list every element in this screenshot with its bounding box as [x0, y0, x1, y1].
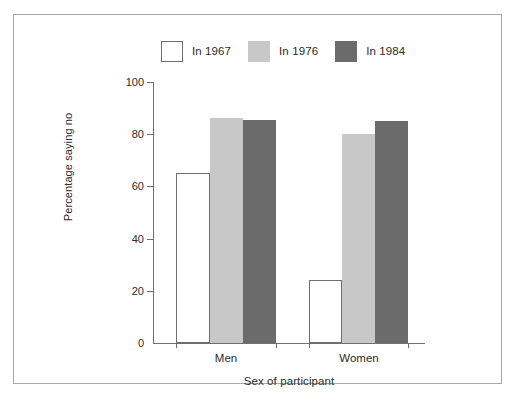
- bar-men-1967: [176, 173, 210, 343]
- x-axis-line: [153, 343, 425, 344]
- y-tick-label-60: 60: [110, 180, 144, 192]
- y-axis-label: Percentage saying no: [62, 107, 74, 227]
- x-tick-label-men: Men: [186, 352, 266, 364]
- y-axis-line: [153, 82, 154, 344]
- y-tick-100: [147, 82, 153, 83]
- y-tick-label-80-wrap: 80: [108, 128, 144, 140]
- bar-women-1967: [309, 280, 342, 343]
- plot-area: Percentage saying no 100 80 60 40 20 0 M…: [14, 15, 515, 401]
- x-axis-label: Sex of participant: [169, 375, 409, 387]
- y-tick-label-100: 100: [110, 76, 144, 88]
- bar-women-1984: [375, 121, 408, 343]
- y-tick-label-40: 40: [110, 233, 144, 245]
- x-tick-left-women: [309, 343, 310, 348]
- y-tick-40: [147, 239, 153, 240]
- y-tick-80: [147, 134, 153, 135]
- y-tick-60: [147, 186, 153, 187]
- y-tick-label-20: 20: [110, 285, 144, 297]
- y-tick-label-80: 80: [110, 128, 144, 140]
- chart-frame: In 1967 In 1976 In 1984 Percentage sayin…: [13, 14, 502, 384]
- x-tick-right-women: [408, 343, 409, 348]
- y-tick-label-60-wrap: 60: [108, 180, 144, 192]
- bar-women-1976: [342, 134, 375, 343]
- bar-men-1984: [243, 120, 276, 343]
- y-tick-label-0: 0: [110, 337, 144, 349]
- x-tick-label-women: Women: [319, 352, 399, 364]
- y-tick-20: [147, 291, 153, 292]
- x-tick-left-men: [176, 343, 177, 348]
- y-tick-label-0-wrap: 0: [108, 337, 144, 349]
- x-tick-right-men: [276, 343, 277, 348]
- bar-men-1976: [210, 118, 243, 343]
- y-tick-label-40-wrap: 40: [108, 233, 144, 245]
- y-tick-label-100-wrap: 100: [108, 76, 144, 88]
- y-tick-label-20-wrap: 20: [108, 285, 144, 297]
